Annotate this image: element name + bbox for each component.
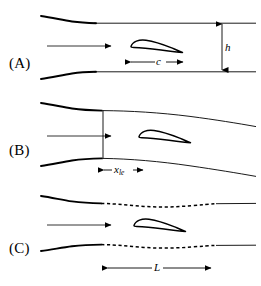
panel-a-lower-wall-lip — [41, 72, 96, 79]
panel-label-c: (C) — [9, 240, 30, 257]
panel-c-upper-wall-lip — [41, 196, 101, 203]
panel-label-b: (B) — [9, 142, 30, 159]
panel-a-upper-wall-lip — [41, 16, 96, 23]
airfoil-wall-configuration-figure: (A) (B) (C) h c xle L — [0, 0, 261, 286]
panel-b-lower-wall — [103, 158, 256, 176]
panel-b-group — [41, 103, 256, 176]
panel-b-airfoil — [139, 130, 191, 142]
chord-dimension-label: c — [156, 55, 161, 67]
panel-a-group — [41, 16, 256, 79]
panel-c-group — [41, 196, 256, 268]
panel-c-lower-wall-dashed — [101, 245, 216, 248]
height-dimension-label: h — [225, 41, 231, 53]
panel-b-upper-wall-lip — [41, 103, 102, 111]
length-dimension-label: L — [154, 261, 160, 273]
panel-a-airfoil — [131, 40, 183, 52]
figure-drawing — [0, 0, 261, 286]
leading-edge-dimension-label: xle — [114, 163, 124, 175]
panel-b-upper-wall — [103, 111, 256, 127]
leading-edge-subscript: le — [119, 168, 124, 177]
panel-c-lower-wall-lip — [41, 245, 101, 251]
panel-c-upper-wall-dashed — [101, 203, 216, 207]
panel-b-lower-wall-lip — [41, 158, 102, 166]
panel-c-airfoil — [134, 219, 186, 231]
panel-label-a: (A) — [9, 55, 30, 72]
